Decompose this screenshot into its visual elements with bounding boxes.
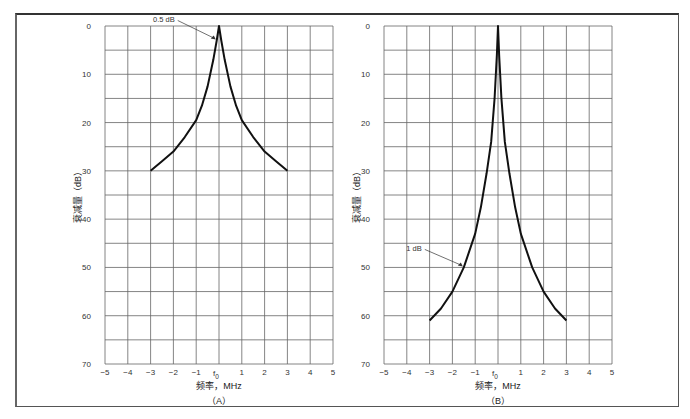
- curve-annotation: 1 dB: [406, 244, 421, 253]
- y-tick-label: 60: [82, 312, 91, 321]
- x-tick-label: 3: [564, 368, 569, 377]
- x-axis-label: 频率，MHz: [196, 380, 242, 391]
- x-axis-label: 频率，MHz: [475, 380, 521, 391]
- y-tick-label: 40: [82, 215, 91, 224]
- x-tick-label: 5: [610, 368, 615, 377]
- arrowhead-icon: [211, 35, 216, 39]
- x-tick-label: −2: [169, 368, 179, 377]
- x-tick-label: 2: [541, 368, 546, 377]
- x-tick-label: 2: [262, 368, 267, 377]
- x-tick-label: −1: [192, 368, 202, 377]
- y-tick-label: 30: [361, 167, 370, 176]
- chart-panel-b: 010203040506070−5−4−3−2−1f012345频率，MHz（B…: [351, 22, 615, 406]
- y-tick-label: 50: [82, 263, 91, 272]
- y-tick-label: 0: [366, 22, 371, 31]
- x-tick-label: f0: [213, 369, 219, 380]
- y-tick-label: 70: [82, 360, 91, 369]
- y-tick-label: 10: [361, 70, 370, 79]
- y-tick-label: 40: [361, 215, 370, 224]
- y-axis-label: 衰减量（dB）: [72, 167, 83, 223]
- x-tick-label: 4: [587, 368, 592, 377]
- y-tick-label: 50: [361, 263, 370, 272]
- x-tick-label: −3: [146, 368, 156, 377]
- panel-label: （A）: [207, 396, 231, 406]
- y-tick-label: 10: [82, 70, 91, 79]
- panel-label: （B）: [486, 396, 510, 406]
- y-tick-label: 20: [82, 119, 91, 128]
- x-tick-label: −5: [100, 368, 110, 377]
- y-tick-label: 0: [87, 22, 92, 31]
- y-tick-label: 70: [361, 360, 370, 369]
- y-tick-label: 30: [82, 167, 91, 176]
- x-tick-label: −1: [471, 368, 481, 377]
- x-tick-label: −3: [425, 368, 435, 377]
- x-tick-label: −4: [402, 368, 412, 377]
- arrowhead-icon: [458, 262, 463, 266]
- curve-annotation: 0.5 dB: [153, 15, 175, 24]
- y-axis-label: 衰减量（dB）: [351, 167, 362, 223]
- x-tick-label: 5: [331, 368, 336, 377]
- annotation-arrow: [425, 249, 462, 265]
- x-tick-label: −5: [379, 368, 389, 377]
- x-tick-label: 1: [240, 368, 245, 377]
- chart-canvas: 010203040506070−5−4−3−2−1f012345频率，MHz（A…: [0, 0, 690, 419]
- x-tick-label: 4: [308, 368, 313, 377]
- y-tick-label: 20: [361, 119, 370, 128]
- x-tick-label: −4: [123, 368, 133, 377]
- chart-panel-a: 010203040506070−5−4−3−2−1f012345频率，MHz（A…: [72, 15, 336, 406]
- y-tick-label: 60: [361, 312, 370, 321]
- x-tick-label: −2: [448, 368, 458, 377]
- x-tick-label: 1: [519, 368, 524, 377]
- x-tick-label: 3: [285, 368, 290, 377]
- x-tick-label: f0: [492, 369, 498, 380]
